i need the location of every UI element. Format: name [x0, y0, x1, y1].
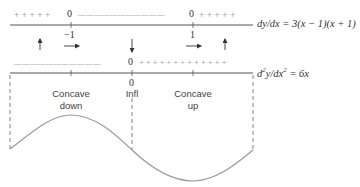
positive-signs-right-second: + + + + + + + + + + + + +: [139, 59, 226, 67]
positive-signs-right: + + + + +: [199, 11, 235, 20]
inflection-label: Infl: [122, 88, 142, 100]
second-derivative-zero: 0: [128, 57, 133, 67]
zero-at-minus-one: 0: [67, 9, 72, 19]
second-derivative-equation: d2y/dx2 = 6x: [257, 67, 309, 79]
concave-down-label: Concave down: [46, 88, 96, 112]
first-derivative-axis: [10, 22, 253, 28]
derivative-sign-diagram: + + + + + 0 — — — — — — — — — — — 0 + + …: [0, 0, 360, 187]
tick-label-minus-one: −1: [64, 30, 75, 40]
inflection-zero: 0: [129, 78, 134, 88]
tick-label-one: 1: [190, 30, 195, 40]
zero-at-one: 0: [189, 9, 194, 19]
negative-signs-middle: — — — — — — — — — — —: [78, 11, 164, 18]
first-derivative-equation: dy/dx = 3(x − 1)(x + 1): [257, 19, 356, 30]
concave-up-label: Concave up: [168, 88, 218, 112]
positive-signs-left: + + + + +: [14, 11, 50, 20]
negative-signs-left: — — — — — — — — — — —: [14, 60, 100, 67]
second-derivative-axis: [10, 70, 253, 76]
function-curve: [10, 115, 253, 181]
